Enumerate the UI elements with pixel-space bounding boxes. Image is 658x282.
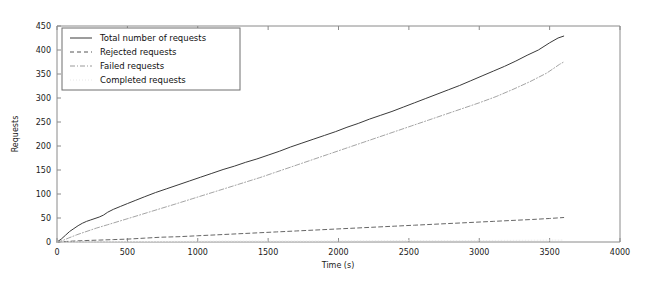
y-tick-label: 250 bbox=[36, 118, 51, 127]
x-axis-label: Time (s) bbox=[321, 261, 355, 270]
x-tick-label: 4000 bbox=[610, 248, 630, 257]
y-tick-label: 350 bbox=[36, 70, 51, 79]
chart-legend: Total number of requestsRejected request… bbox=[62, 28, 240, 90]
legend-label-1: Rejected requests bbox=[100, 47, 177, 57]
legend-label-3: Completed requests bbox=[100, 75, 186, 85]
y-tick-label: 400 bbox=[36, 46, 51, 55]
series-line-1 bbox=[57, 218, 564, 242]
line-chart: 050100150200250300350400450 050010001500… bbox=[0, 0, 658, 282]
x-tick-label: 2000 bbox=[328, 248, 348, 257]
y-axis-tick-labels: 050100150200250300350400450 bbox=[36, 22, 51, 247]
chart-figure: 050100150200250300350400450 050010001500… bbox=[0, 0, 658, 282]
x-tick-label: 1500 bbox=[258, 248, 278, 257]
y-tick-label: 0 bbox=[46, 238, 51, 247]
y-tick-label: 50 bbox=[41, 214, 51, 223]
x-tick-label: 3000 bbox=[469, 248, 489, 257]
x-axis-tick-labels: 05001000150020002500300035004000 bbox=[54, 248, 630, 257]
y-tick-label: 100 bbox=[36, 190, 51, 199]
y-tick-label: 450 bbox=[36, 22, 51, 31]
x-tick-label: 3500 bbox=[539, 248, 559, 257]
x-tick-label: 1000 bbox=[188, 248, 208, 257]
y-axis-ticks bbox=[57, 26, 61, 242]
y-axis-label: Requests bbox=[11, 116, 20, 153]
x-tick-label: 2500 bbox=[399, 248, 419, 257]
y-tick-label: 300 bbox=[36, 94, 51, 103]
legend-label-2: Failed requests bbox=[100, 61, 165, 71]
y-tick-label: 200 bbox=[36, 142, 51, 151]
legend-label-0: Total number of requests bbox=[99, 33, 207, 43]
x-tick-label: 500 bbox=[120, 248, 135, 257]
y-tick-label: 150 bbox=[36, 166, 51, 175]
x-tick-label: 0 bbox=[54, 248, 59, 257]
